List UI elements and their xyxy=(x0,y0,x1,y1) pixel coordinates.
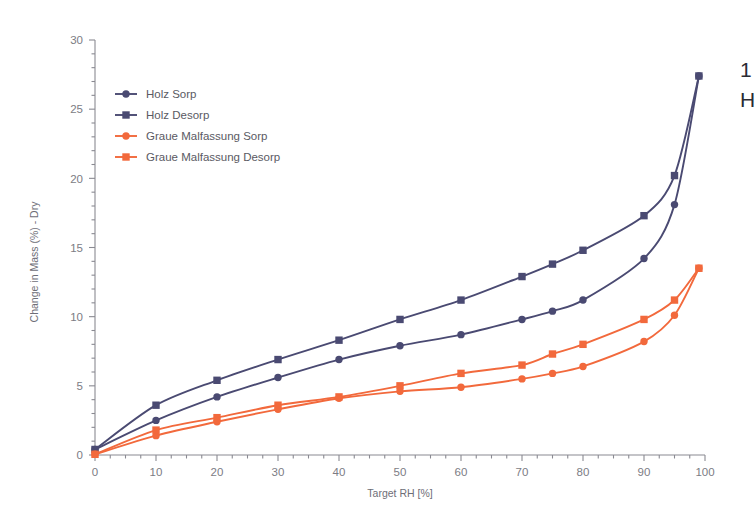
data-point-marker xyxy=(640,316,647,323)
x-tick-label: 50 xyxy=(394,466,407,478)
data-point-marker xyxy=(640,338,647,345)
data-point-marker xyxy=(640,255,647,262)
y-tick-label: 10 xyxy=(70,311,83,323)
y-tick-label: 5 xyxy=(77,380,83,392)
legend-marker-square xyxy=(122,111,129,118)
data-point-marker xyxy=(274,374,281,381)
data-point-marker xyxy=(695,265,702,272)
data-point-marker xyxy=(457,384,464,391)
data-point-marker xyxy=(640,212,647,219)
data-point-marker xyxy=(396,342,403,349)
data-point-marker xyxy=(152,417,159,424)
legend-label: Holz Desorp xyxy=(146,109,209,121)
y-tick-label: 0 xyxy=(77,449,83,461)
edge-text-line-2: H xyxy=(740,85,756,115)
data-point-marker xyxy=(213,393,220,400)
x-tick-label: 70 xyxy=(516,466,529,478)
data-point-marker xyxy=(695,72,702,79)
data-point-marker xyxy=(579,296,586,303)
data-point-marker xyxy=(549,370,556,377)
data-point-marker xyxy=(152,402,159,409)
data-point-marker xyxy=(671,201,678,208)
sorption-isotherm-chart: 051015202530 0102030405060708090100 Holz… xyxy=(0,0,756,531)
data-point-marker xyxy=(457,331,464,338)
data-point-marker xyxy=(274,402,281,409)
x-tick-label: 30 xyxy=(272,466,285,478)
y-tick-label: 30 xyxy=(70,34,83,46)
data-point-marker xyxy=(579,247,586,254)
data-point-marker xyxy=(91,451,98,458)
y-tick-label: 25 xyxy=(70,103,83,115)
data-point-marker xyxy=(518,273,525,280)
data-point-marker xyxy=(335,356,342,363)
data-point-marker xyxy=(549,260,556,267)
legend-marker-circle xyxy=(122,132,129,139)
data-point-marker xyxy=(457,370,464,377)
edge-text-line-1: 1 xyxy=(740,55,756,85)
x-tick-label: 10 xyxy=(150,466,163,478)
data-point-marker xyxy=(579,341,586,348)
data-point-marker xyxy=(213,377,220,384)
data-point-marker xyxy=(518,316,525,323)
x-tick-label: 60 xyxy=(455,466,468,478)
y-tick-label: 20 xyxy=(70,173,83,185)
data-point-marker xyxy=(671,172,678,179)
data-point-marker xyxy=(671,312,678,319)
chart-background xyxy=(0,0,756,531)
legend-marker-square xyxy=(122,153,129,160)
chart-figure: 051015202530 0102030405060708090100 Holz… xyxy=(0,0,756,531)
data-point-marker xyxy=(671,296,678,303)
x-tick-label: 80 xyxy=(577,466,590,478)
y-axis-title: Change in Mass (%) - Dry xyxy=(28,201,40,323)
data-point-marker xyxy=(274,356,281,363)
x-tick-label: 100 xyxy=(695,466,714,478)
x-tick-label: 0 xyxy=(92,466,98,478)
legend-label: Graue Malfassung Desorp xyxy=(146,151,280,163)
data-point-marker xyxy=(213,414,220,421)
x-tick-label: 20 xyxy=(211,466,224,478)
data-point-marker xyxy=(518,375,525,382)
data-point-marker xyxy=(549,307,556,314)
data-point-marker xyxy=(549,350,556,357)
data-point-marker xyxy=(152,426,159,433)
x-tick-label: 40 xyxy=(333,466,346,478)
y-tick-label: 15 xyxy=(70,242,83,254)
legend-label: Holz Sorp xyxy=(146,88,197,100)
data-point-marker xyxy=(579,363,586,370)
data-point-marker xyxy=(396,316,403,323)
legend-marker-circle xyxy=(122,90,129,97)
data-point-marker xyxy=(518,361,525,368)
data-point-marker xyxy=(396,382,403,389)
x-tick-label: 90 xyxy=(638,466,651,478)
x-axis-title: Target RH [%] xyxy=(367,487,432,499)
data-point-marker xyxy=(335,336,342,343)
legend-label: Graue Malfassung Sorp xyxy=(146,130,267,142)
data-point-marker xyxy=(335,393,342,400)
data-point-marker xyxy=(457,296,464,303)
